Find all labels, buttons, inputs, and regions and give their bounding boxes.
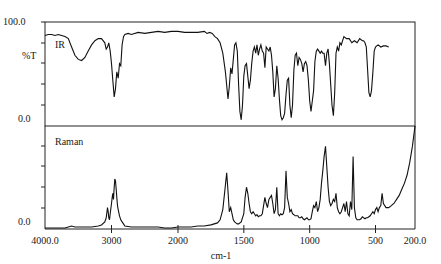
ir-panel-label: IR [55, 39, 65, 50]
ir-y-axis-title: %T [22, 50, 36, 61]
x-tick-label: 200.0 [404, 235, 427, 246]
x-tick-label: 2000 [168, 235, 188, 246]
x-tick-label: 500 [368, 235, 383, 246]
raman-panel-label: Raman [55, 136, 83, 147]
plot-frame [45, 22, 415, 229]
ir-spectrum-line [45, 31, 389, 119]
axis-ticks [41, 22, 376, 233]
raman-spectrum-line [45, 126, 415, 228]
ir-y-bottom-label: 0.0 [18, 113, 31, 124]
x-tick-label: 1500 [234, 235, 254, 246]
x-axis-title: cm-1 [211, 250, 232, 261]
x-tick-labels: 4000.03000200015001000500200.0 [31, 235, 426, 246]
x-tick-label: 1000 [300, 235, 320, 246]
x-tick-label: 4000.0 [31, 235, 59, 246]
raman-y-bottom-label: 0.0 [18, 216, 31, 227]
ir-raman-spectrum-chart: 100.0 %T 0.0 0.0 IR Raman 4000.030002000… [0, 0, 441, 264]
ir-y-top-label: 100.0 [3, 16, 26, 27]
x-tick-label: 3000 [102, 235, 122, 246]
